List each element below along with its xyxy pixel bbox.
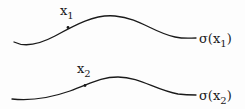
sigma-x2-prefix: σ(x: [199, 88, 220, 103]
x1-label-sub: 1: [67, 10, 73, 21]
sigma-x1-label: σ(x1): [199, 32, 232, 45]
sigma-x1-sub: 1: [220, 38, 226, 49]
sigma-x1-prefix: σ(x: [199, 31, 220, 46]
sigma-x2-suffix: ): [227, 88, 232, 103]
curve-1-path: [14, 16, 196, 45]
sigma-x2-label: σ(x2): [199, 89, 232, 102]
sigma-x1-suffix: ): [227, 31, 232, 46]
sigma-x2-sub: 2: [220, 95, 226, 106]
x2-label: x2: [77, 62, 91, 75]
curve-1-point-marker: [67, 26, 70, 29]
x1-label: x1: [60, 4, 74, 17]
diagram-canvas: x1 σ(x1) x2 σ(x2): [0, 0, 245, 109]
x2-label-sub: 2: [84, 68, 90, 79]
curve-2-path: [12, 77, 196, 100]
curve-2-point-marker: [84, 84, 87, 87]
